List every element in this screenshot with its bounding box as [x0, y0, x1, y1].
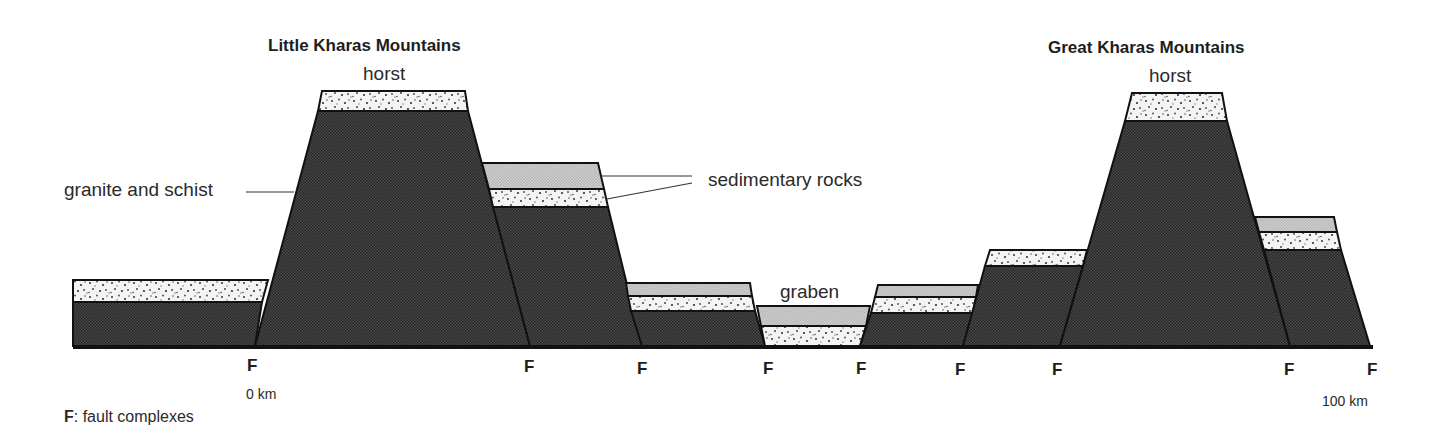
scale-end-label: 100 km [1322, 393, 1368, 409]
label-graben: graben [780, 281, 839, 303]
fault-block-5 [860, 285, 978, 346]
legend-key: F [64, 408, 74, 425]
legend: F: fault complexes [64, 408, 194, 426]
title-great-kharas: Great Kharas Mountains [1048, 38, 1245, 58]
little-kharas-horst-block [255, 91, 530, 346]
fault-marker: F [955, 360, 965, 380]
fault-marker: F [1052, 360, 1062, 380]
label-horst-right: horst [1149, 65, 1191, 87]
legend-text: : fault complexes [74, 408, 194, 425]
title-little-kharas: Little Kharas Mountains [268, 36, 461, 56]
fault-marker: F [524, 357, 534, 377]
scale-start-label: 0 km [246, 386, 276, 402]
graben-block [757, 306, 870, 346]
cross-section-diagram [0, 0, 1445, 441]
label-sedimentary-rocks: sedimentary rocks [708, 169, 862, 191]
fault-marker: F [856, 359, 866, 379]
sedimentary-leader-line-lower [607, 183, 692, 199]
label-granite-and-schist: granite and schist [64, 179, 213, 201]
fault-block-3 [626, 283, 765, 346]
label-horst-left: horst [363, 63, 405, 85]
fault-marker: F [1367, 360, 1377, 380]
fault-marker: F [763, 359, 773, 379]
left-platform-block [73, 280, 268, 346]
fault-marker: F [637, 359, 647, 379]
fault-marker: F [247, 356, 257, 376]
fault-marker: F [1284, 360, 1294, 380]
